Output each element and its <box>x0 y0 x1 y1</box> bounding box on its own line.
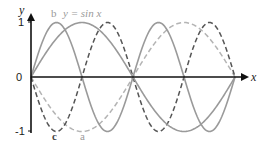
y-axis-label: y <box>18 3 25 17</box>
y-tick-label-0: 0 <box>16 71 22 83</box>
curve-label-b: b <box>51 7 57 19</box>
x-axis-label: x <box>250 70 257 84</box>
sin-eq-var: x <box>95 7 101 19</box>
curve-label-a: a <box>80 130 85 142</box>
curve-label-sin-x: y = sin x <box>62 7 101 19</box>
y-tick-label-1: 1 <box>18 16 24 28</box>
curve-label-c: c <box>52 130 57 142</box>
sine-graph: y x 1 0 -1 b y = sin x c a <box>0 0 267 143</box>
y-tick-label-neg1: -1 <box>15 125 25 137</box>
sin-eq-prefix: y = sin <box>62 7 96 19</box>
